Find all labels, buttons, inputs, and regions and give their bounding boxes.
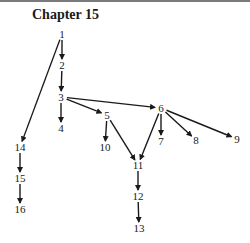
edge-6-11 [140, 114, 159, 160]
node-10: 10 [100, 142, 111, 153]
node-16: 16 [15, 204, 26, 215]
node-15: 15 [15, 173, 26, 184]
diagram-canvas: Chapter 15 12345678910111213141516 [0, 0, 250, 243]
node-11: 11 [133, 160, 144, 171]
node-1: 1 [59, 29, 65, 40]
node-8: 8 [193, 135, 199, 146]
edge-5-10 [105, 121, 106, 141]
node-4: 4 [58, 123, 64, 134]
edge-1-14 [22, 40, 60, 142]
edges-layer [0, 0, 250, 243]
edge-12-13 [138, 202, 139, 222]
node-2: 2 [59, 60, 65, 71]
node-7: 7 [158, 136, 164, 147]
edge-5-11 [110, 120, 135, 160]
edge-2-3 [61, 71, 62, 91]
node-6: 6 [158, 103, 164, 114]
node-12: 12 [133, 191, 144, 202]
node-14: 14 [15, 142, 26, 153]
node-13: 13 [134, 223, 145, 234]
edge-3-6 [67, 98, 155, 108]
node-9: 9 [234, 134, 240, 145]
node-3: 3 [58, 92, 64, 103]
node-5: 5 [104, 110, 110, 121]
